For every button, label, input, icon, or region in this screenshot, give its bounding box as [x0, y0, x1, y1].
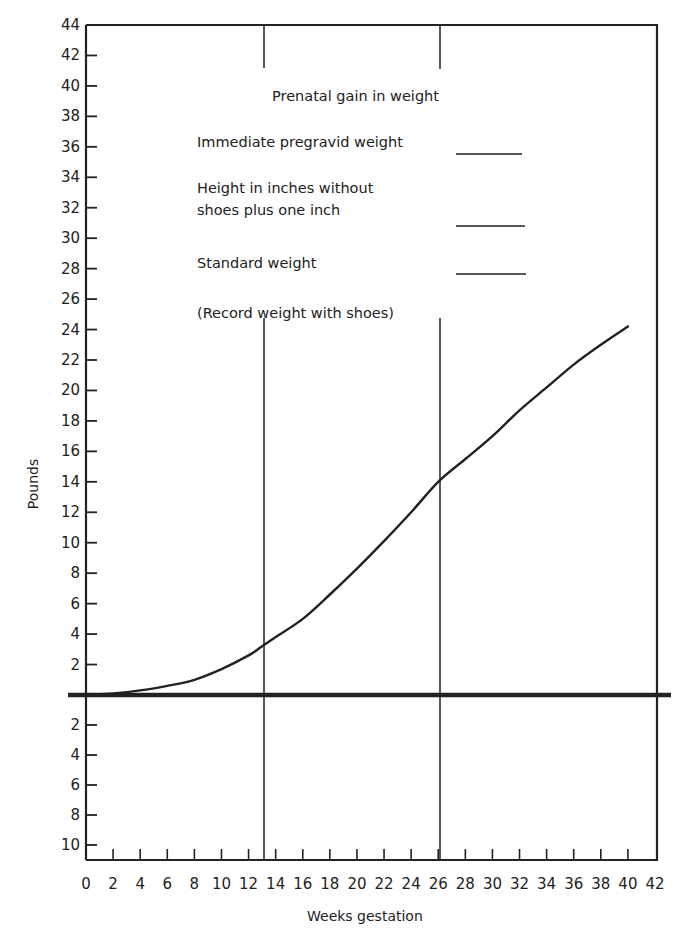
- y-tick-label: 34: [61, 168, 80, 186]
- y-tick-label: 4: [70, 625, 80, 643]
- x-axis-title: Weeks gestation: [307, 908, 423, 924]
- trimester-markers: [264, 25, 440, 860]
- x-tick-label: 6: [163, 875, 173, 893]
- x-tick-label: 34: [537, 875, 556, 893]
- y-tick-label: 8: [70, 806, 80, 824]
- x-tick-label: 14: [266, 875, 285, 893]
- y-tick-label: 6: [70, 776, 80, 794]
- legend-standard-weight: Standard weight: [197, 255, 317, 271]
- legend-height-line1: Height in inches without: [197, 180, 374, 196]
- y-tick-label: 38: [61, 107, 80, 125]
- y-tick-label: 2: [70, 716, 80, 734]
- legend-height-line2: shoes plus one inch: [197, 202, 340, 218]
- weight-gain-chart: 2468101214161820222426283032343638404244…: [0, 0, 689, 932]
- y-tick-label: 8: [70, 564, 80, 582]
- x-tick-label: 42: [645, 875, 664, 893]
- y-tick-label: 24: [61, 321, 80, 339]
- plot-frame: [86, 25, 658, 860]
- y-tick-label: 44: [61, 16, 80, 34]
- y-tick-label: 36: [61, 138, 80, 156]
- y-axis-title: Pounds: [25, 459, 41, 509]
- legend-box: Prenatal gain in weight Immediate pregra…: [197, 88, 526, 321]
- x-tick-label: 32: [510, 875, 529, 893]
- y-tick-label: 12: [61, 503, 80, 521]
- x-tick-label: 16: [293, 875, 312, 893]
- x-tick-label: 2: [108, 875, 118, 893]
- x-tick-label: 38: [591, 875, 610, 893]
- x-tick-label: 8: [190, 875, 200, 893]
- y-tick-label: 22: [61, 351, 80, 369]
- y-axis-ticks: 2468101214161820222426283032343638404244…: [61, 16, 97, 854]
- y-tick-label: 16: [61, 442, 80, 460]
- y-tick-label: 20: [61, 381, 80, 399]
- legend-note: (Record weight with shoes): [197, 305, 394, 321]
- x-tick-label: 0: [81, 875, 91, 893]
- y-tick-label: 2: [70, 656, 80, 674]
- x-axis-ticks: 024681012141618202224262830323436384042: [81, 849, 664, 893]
- x-tick-label: 18: [320, 875, 339, 893]
- y-tick-label: 30: [61, 229, 80, 247]
- y-tick-label: 18: [61, 412, 80, 430]
- x-tick-label: 28: [456, 875, 475, 893]
- y-tick-label: 14: [61, 473, 80, 491]
- x-tick-label: 12: [239, 875, 258, 893]
- x-tick-label: 20: [347, 875, 366, 893]
- y-tick-label: 32: [61, 199, 80, 217]
- y-tick-label: 26: [61, 290, 80, 308]
- x-tick-label: 4: [135, 875, 145, 893]
- y-tick-label: 10: [61, 836, 80, 854]
- y-tick-label: 28: [61, 260, 80, 278]
- y-tick-label: 4: [70, 746, 80, 764]
- y-tick-label: 10: [61, 534, 80, 552]
- x-tick-label: 26: [429, 875, 448, 893]
- y-tick-label: 40: [61, 77, 80, 95]
- weight-gain-curve: [86, 327, 628, 696]
- x-tick-label: 30: [483, 875, 502, 893]
- x-tick-label: 40: [618, 875, 637, 893]
- x-tick-label: 36: [564, 875, 583, 893]
- x-tick-label: 24: [402, 875, 421, 893]
- legend-pregravid-weight: Immediate pregravid weight: [197, 134, 403, 150]
- x-tick-label: 10: [212, 875, 231, 893]
- x-tick-label: 22: [375, 875, 394, 893]
- y-tick-label: 42: [61, 46, 80, 64]
- y-tick-label: 6: [70, 595, 80, 613]
- legend-title: Prenatal gain in weight: [272, 88, 439, 104]
